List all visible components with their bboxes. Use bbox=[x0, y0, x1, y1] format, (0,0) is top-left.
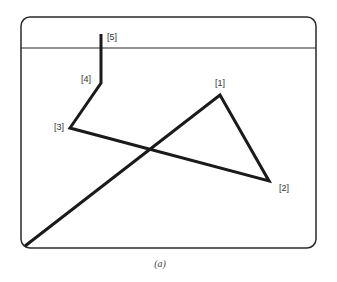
point-label-4: [4] bbox=[81, 74, 91, 84]
polyline-diagram: [1] [2] [3] [4] [5] (a) bbox=[0, 0, 337, 282]
point-label-5: [5] bbox=[107, 32, 117, 42]
figure-caption: (a) bbox=[154, 258, 166, 270]
point-label-1: [1] bbox=[215, 78, 225, 88]
point-label-2: [2] bbox=[279, 183, 289, 193]
drawn-path bbox=[25, 34, 269, 246]
point-label-3: [3] bbox=[54, 122, 64, 132]
